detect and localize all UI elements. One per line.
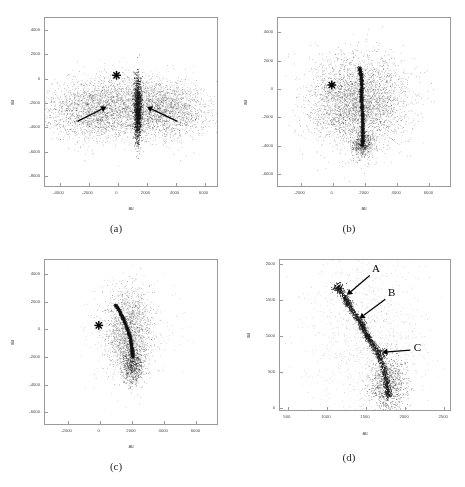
- plot-area-c: [44, 259, 218, 425]
- x-tick-b: [301, 183, 302, 186]
- x-tick-label-a-0: -4000: [53, 190, 64, 195]
- panel-caption-d: (d): [233, 451, 465, 463]
- panel-c: au au (c) 400020000-2000-4000-6000-20000…: [0, 245, 232, 487]
- y-tick-label-d-1: 500: [253, 368, 275, 373]
- y-axis-title-d: au: [246, 333, 251, 338]
- x-tick-label-c-3: 4000: [159, 428, 168, 433]
- scatter-canvas-b: [278, 18, 450, 186]
- x-tick-b: [365, 183, 366, 186]
- y-tick-c: [45, 274, 48, 275]
- x-tick-label-d-0: 500: [283, 414, 290, 419]
- y-tick-label-d-2: 1000: [253, 333, 275, 338]
- y-tick-a: [45, 30, 48, 31]
- x-tick-c: [68, 421, 69, 424]
- x-tick-label-d-2: 1500: [360, 414, 369, 419]
- y-tick-label-c-0: 4000: [18, 270, 40, 275]
- y-tick-a: [45, 176, 48, 177]
- y-tick-a: [45, 79, 48, 80]
- x-tick-label-a-3: 2000: [141, 190, 150, 195]
- y-axis-title-b: au: [243, 100, 248, 105]
- y-tick-c: [45, 357, 48, 358]
- y-tick-a: [45, 152, 48, 153]
- x-tick-label-d-3: 2000: [399, 414, 408, 419]
- y-tick-label-a-1: 2000: [18, 51, 40, 56]
- y-tick-label-c-5: -6000: [18, 409, 40, 414]
- y-tick-label-c-1: 2000: [18, 298, 40, 303]
- panel-b: au au (b) 400020000-2000-4000-6000-20000…: [233, 0, 465, 244]
- panel-caption-c: (c): [0, 460, 232, 472]
- y-axis-title-c: au: [10, 340, 15, 345]
- x-tick-label-c-0: -2000: [61, 428, 72, 433]
- scatter-canvas-d: [280, 260, 450, 410]
- y-tick-d: [280, 372, 283, 373]
- y-tick-b: [278, 174, 281, 175]
- x-tick-c: [100, 421, 101, 424]
- y-tick-label-a-5: -6000: [18, 148, 40, 153]
- y-tick-label-a-3: -2000: [18, 100, 40, 105]
- y-tick-label-c-2: 0: [18, 326, 40, 331]
- x-tick-label-c-2: 2000: [126, 428, 135, 433]
- y-tick-c: [45, 385, 48, 386]
- y-tick-label-d-0: 0: [253, 404, 275, 409]
- x-tick-label-a-1: -2000: [82, 190, 93, 195]
- y-tick-label-b-2: 0: [251, 85, 273, 90]
- figure-container: au au (a) 400020000-2000-4000-6000-8000-…: [0, 0, 465, 487]
- x-tick-c: [196, 421, 197, 424]
- x-tick-label-b-3: 4000: [392, 190, 401, 195]
- y-tick-label-b-4: -4000: [251, 142, 273, 147]
- y-tick-b: [278, 117, 281, 118]
- y-tick-label-b-3: -2000: [251, 114, 273, 119]
- x-tick-b: [397, 183, 398, 186]
- x-tick-d: [366, 407, 367, 410]
- x-tick-label-a-2: 0: [115, 190, 117, 195]
- y-tick-label-c-3: -2000: [18, 353, 40, 358]
- x-tick-d: [444, 407, 445, 410]
- x-tick-d: [288, 407, 289, 410]
- x-tick-a: [147, 183, 148, 186]
- panel-a: au au (a) 400020000-2000-4000-6000-8000-…: [0, 0, 232, 244]
- x-tick-label-b-0: -2000: [294, 190, 305, 195]
- x-tick-a: [60, 183, 61, 186]
- x-axis-title-a: au: [128, 206, 133, 211]
- y-tick-b: [278, 32, 281, 33]
- x-tick-label-c-4: 6000: [191, 428, 200, 433]
- y-tick-d: [280, 264, 283, 265]
- y-tick-label-a-0: 4000: [18, 27, 40, 32]
- y-tick-c: [45, 302, 48, 303]
- x-tick-b: [429, 183, 430, 186]
- y-tick-label-a-4: -4000: [18, 124, 40, 129]
- y-tick-a: [45, 54, 48, 55]
- y-tick-c: [45, 329, 48, 330]
- x-tick-label-b-1: 0: [331, 190, 333, 195]
- y-tick-d: [280, 336, 283, 337]
- panel-caption-a: (a): [0, 222, 232, 234]
- plot-area-a: [44, 17, 218, 187]
- y-tick-a: [45, 103, 48, 104]
- y-tick-label-c-4: -4000: [18, 381, 40, 386]
- scatter-canvas-a: [45, 18, 217, 186]
- scatter-canvas-c: [45, 260, 217, 424]
- x-tick-label-b-4: 6000: [424, 190, 433, 195]
- y-tick-label-a-2: 0: [18, 75, 40, 80]
- y-tick-a: [45, 127, 48, 128]
- y-tick-label-d-3: 1500: [253, 297, 275, 302]
- x-tick-c: [164, 421, 165, 424]
- x-tick-a: [118, 183, 119, 186]
- x-axis-title-c: au: [128, 444, 133, 449]
- x-tick-label-c-1: 0: [98, 428, 100, 433]
- y-tick-b: [278, 89, 281, 90]
- plot-area-b: [277, 17, 451, 187]
- x-axis-title-b: au: [361, 206, 366, 211]
- y-tick-label-a-6: -8000: [18, 172, 40, 177]
- x-axis-title-d: au: [362, 431, 367, 436]
- x-tick-label-a-4: 4000: [170, 190, 179, 195]
- x-tick-label-a-5: 6000: [199, 190, 208, 195]
- panel-caption-b: (b): [233, 222, 465, 234]
- y-tick-d: [280, 300, 283, 301]
- y-tick-b: [278, 146, 281, 147]
- panel-d: ABC au au (d) 05001000150020005001000150…: [233, 245, 465, 487]
- y-tick-c: [45, 412, 48, 413]
- x-tick-a: [176, 183, 177, 186]
- x-tick-d: [327, 407, 328, 410]
- y-tick-d: [280, 408, 283, 409]
